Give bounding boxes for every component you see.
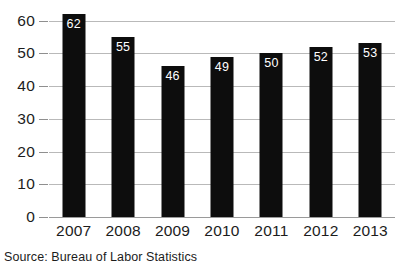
x-axis-tick-label: 2013: [346, 222, 395, 240]
y-axis-tick-label: 40: [17, 77, 35, 95]
y-axis-tick: [39, 119, 48, 120]
bar[interactable]: 52: [309, 47, 332, 217]
x-axis-tick-label: 2012: [296, 222, 345, 240]
y-axis-tick-label: 20: [17, 143, 35, 161]
y-axis-tick-label: 60: [17, 12, 35, 30]
bar-value-label: 49: [210, 60, 233, 74]
x-axis-tick-label: 2008: [98, 222, 147, 240]
bar[interactable]: 62: [62, 14, 85, 217]
bar-value-label: 62: [62, 17, 85, 31]
bar[interactable]: 55: [112, 37, 135, 217]
y-axis-tick-label: 50: [17, 44, 35, 62]
source-note: Source: Bureau of Labor Statistics: [4, 250, 197, 264]
chart-title-cropped: [250, 0, 400, 3]
x-axis-tick-label: 2007: [49, 222, 98, 240]
y-axis-tick: [39, 152, 48, 153]
bar-value-label: 50: [260, 56, 283, 70]
y-axis-tick: [39, 184, 48, 185]
y-axis-tick: [39, 86, 48, 87]
bar[interactable]: 53: [359, 43, 382, 217]
bar[interactable]: 50: [260, 53, 283, 217]
x-axis-labels: 2007200820092010201120122013: [49, 222, 395, 244]
bar[interactable]: 46: [161, 66, 184, 217]
y-axis-tick-label: 0: [26, 208, 35, 226]
x-axis-tick-label: 2010: [197, 222, 246, 240]
bars-layer: 62554649505253: [49, 14, 395, 217]
bar[interactable]: 49: [210, 57, 233, 217]
axis-baseline: [49, 217, 395, 218]
y-axis-tick: [39, 21, 48, 22]
x-axis-tick-label: 2009: [148, 222, 197, 240]
y-axis-tick-label: 10: [17, 175, 35, 193]
bar-value-label: 53: [359, 46, 382, 60]
bar-value-label: 52: [309, 50, 332, 64]
y-axis-tick: [39, 217, 48, 218]
y-axis-tick-label: 30: [17, 110, 35, 128]
bar-chart-figure: 0102030405060 62554649505253 20072008200…: [0, 0, 407, 269]
bar-value-label: 46: [161, 69, 184, 83]
x-axis-tick-label: 2011: [247, 222, 296, 240]
bar-value-label: 55: [112, 40, 135, 54]
y-axis-tick: [39, 53, 48, 54]
